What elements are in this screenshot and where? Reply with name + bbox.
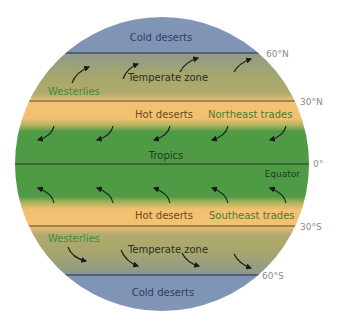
equator-label: Equator [265, 169, 301, 179]
westerlies-north-label: Westerlies [48, 86, 100, 97]
southeast-trades-label: Southeast trades [209, 210, 295, 221]
latitude-60n-label: 60°N [266, 49, 289, 59]
latitude-equator-label: 0° [313, 159, 323, 169]
hot-deserts-south-label: Hot deserts [135, 210, 193, 221]
temperate-zone-north-label: Temperate zone [127, 72, 208, 83]
cold-deserts-north-label: Cold deserts [130, 32, 193, 43]
cold-deserts-south-label: Cold deserts [132, 287, 195, 298]
climate-zones-diagram: Cold deserts Temperate zone Westerlies H… [0, 0, 338, 325]
hot-deserts-north-label: Hot deserts [135, 109, 193, 120]
westerlies-south-label: Westerlies [48, 233, 100, 244]
latitude-60s-label: 60°S [262, 271, 284, 281]
northeast-trades-label: Northeast trades [208, 109, 292, 120]
latitude-30n-label: 30°N [300, 97, 323, 107]
tropics-label: Tropics [148, 150, 183, 161]
latitude-30s-label: 30°S [300, 222, 322, 232]
temperate-zone-south-label: Temperate zone [127, 244, 208, 255]
